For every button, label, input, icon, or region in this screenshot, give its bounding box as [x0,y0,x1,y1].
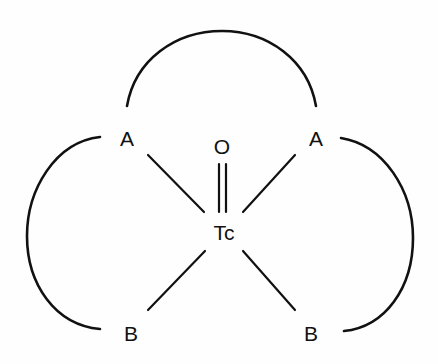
atom-label-a-top-right: A [309,127,323,150]
linker-arc-top [127,31,316,106]
bond-tc-b-left [148,251,205,310]
tc-complex-diagram: A A O Tc B B [0,0,438,364]
atom-label-b-bottom-left: B [124,322,138,345]
bond-tc-a-right [243,155,295,212]
atom-label-tc: Tc [214,221,235,244]
linker-arc-left [27,137,100,329]
atom-label-a-top-left: A [120,127,134,150]
bond-tc-a-left [148,155,204,212]
bond-tc-b-right [243,251,295,310]
atom-label-oxo: O [214,135,230,158]
linker-arc-right [341,138,413,331]
atom-label-b-bottom-right: B [304,322,318,345]
